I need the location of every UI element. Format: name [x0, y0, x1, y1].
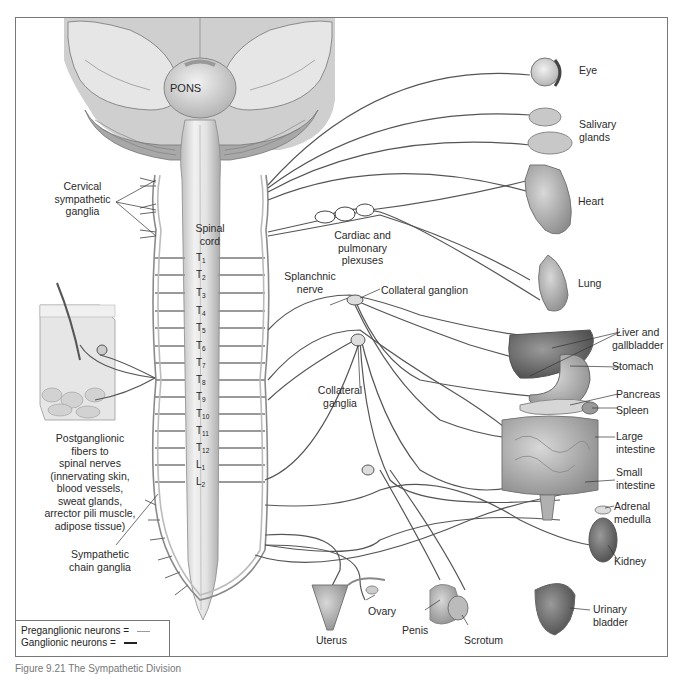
label-line: intestine [616, 443, 655, 456]
legend: Preganglionic neurons = Ganglionic neuro… [15, 620, 170, 657]
label-line: ganglia [40, 205, 125, 218]
label-line: plexuses [325, 254, 400, 267]
label-line: nerve [280, 283, 340, 296]
ovary-label: Ovary [368, 605, 396, 618]
label-line: (innervating skin, [25, 470, 155, 483]
label-line: Urinary [593, 603, 628, 616]
label-line: Salivary [579, 118, 616, 131]
spinal-segment-L1: L1 [196, 459, 205, 471]
large-intestine-label: Large intestine [616, 430, 655, 455]
heart-illustration [525, 165, 571, 234]
label-line: spinal nerves [25, 457, 155, 470]
spinal-segment-T4: T4 [196, 305, 206, 317]
legend-preganglionic-label: Preganglionic neurons = [21, 625, 129, 637]
urinary-bladder-illustration [535, 584, 575, 635]
penis-label: Penis [402, 624, 428, 637]
stomach-label: Stomach [612, 360, 653, 373]
spinal-cord [181, 120, 221, 620]
salivary-glands-label: Salivary glands [579, 118, 616, 143]
collateral-ganglion-label: Collateral ganglion [381, 284, 468, 297]
label-line: glands [579, 131, 616, 144]
salivary-gland-illustration [528, 108, 572, 154]
spinal-segment-L2: L2 [196, 476, 205, 488]
penis-scrotum-illustration [430, 584, 468, 624]
label-line: Postganglionic [25, 432, 155, 445]
kidney-label: Kidney [614, 555, 646, 568]
label-line: fibers to [25, 445, 155, 458]
splanchnic-nerve-label: Splanchnic nerve [280, 270, 340, 295]
spleen-label: Spleen [616, 404, 649, 417]
label-line: Small [616, 466, 655, 479]
spinal-segment-T8: T8 [196, 374, 206, 386]
label-line: Cervical [40, 180, 125, 193]
spinal-segment-T5: T5 [196, 322, 206, 334]
adrenal-kidney-illustration [589, 506, 617, 562]
spinal-segment-T10: T10 [196, 408, 209, 420]
label-line: intestine [616, 479, 655, 492]
eye-illustration [531, 58, 560, 86]
spinal-cord-text: Spinal cord [190, 222, 230, 247]
cervical-ganglia-label: Cervical sympathetic ganglia [40, 180, 125, 218]
eye-label: Eye [579, 64, 597, 77]
label-line: adipose tissue) [25, 520, 155, 533]
sympathetic-chain-ganglia-label: Sympathetic chain ganglia [55, 548, 145, 573]
label-line: chain ganglia [55, 561, 145, 574]
ganglionic-line-swatch [124, 642, 137, 644]
label-line: pulmonary [325, 242, 400, 255]
spinal-segment-T1: T1 [196, 252, 206, 264]
figure-caption: Figure 9.21 The Sympathetic Division [15, 663, 181, 674]
label-line: Large [616, 430, 655, 443]
adrenal-medulla-label: Adrenal medulla [614, 500, 651, 525]
legend-ganglionic-label: Ganglionic neurons = [21, 637, 116, 649]
label-line: Liver and [612, 326, 663, 339]
spinal-segment-T9: T9 [196, 391, 206, 403]
spinal-segment-T2: T2 [196, 269, 206, 281]
label-line: bladder [593, 616, 628, 629]
spinal-cord-label: Spinal cord [190, 222, 230, 247]
label-line: sweat glands, [25, 495, 155, 508]
cardiac-pulmonary-plexuses-label: Cardiac and pulmonary plexuses [325, 229, 400, 267]
postganglionic-fibers-label: Postganglionic fibers to spinal nerves (… [25, 432, 155, 532]
chain-ganglia-spurs [140, 178, 188, 595]
collateral-ganglia-label: Collateral ganglia [310, 384, 370, 409]
spinal-segment-T7: T7 [196, 357, 206, 369]
preganglionic-line-swatch [137, 631, 150, 632]
spinal-segment-T12: T12 [196, 442, 209, 454]
spinal-segment-T6: T6 [196, 340, 206, 352]
label-line: ganglia [310, 397, 370, 410]
spinal-segment-T11: T11 [196, 425, 209, 437]
legend-preganglionic: Preganglionic neurons = [21, 625, 169, 637]
skin-inset [40, 283, 155, 420]
pancreas-label: Pancreas [616, 388, 660, 401]
pons-label: PONS [170, 82, 201, 95]
label-line: gallbladder [612, 339, 663, 352]
label-line: medulla [614, 513, 651, 526]
uterus-label: Uterus [316, 634, 347, 647]
lung-illustration [539, 255, 568, 311]
spinal-segment-T3: T3 [196, 287, 206, 299]
label-line: Adrenal [614, 500, 651, 513]
scrotum-label: Scrotum [464, 634, 503, 647]
lung-label: Lung [578, 277, 601, 290]
small-intestine-label: Small intestine [616, 466, 655, 491]
label-line: Cardiac and [325, 229, 400, 242]
legend-ganglionic: Ganglionic neurons = [21, 637, 169, 649]
liver-gallbladder-label: Liver and gallbladder [612, 326, 663, 351]
label-line: sympathetic [40, 193, 125, 206]
label-line: arrector pili muscle, [25, 507, 155, 520]
urinary-bladder-label: Urinary bladder [593, 603, 628, 628]
label-line: blood vessels, [25, 482, 155, 495]
label-line: Sympathetic [55, 548, 145, 561]
cardiac-pulmonary-plexus [315, 204, 374, 223]
heart-label: Heart [578, 195, 604, 208]
label-line: Collateral [310, 384, 370, 397]
label-line: Splanchnic [280, 270, 340, 283]
